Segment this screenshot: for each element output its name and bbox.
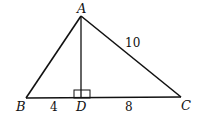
- label-d: D: [75, 99, 87, 113]
- segment-ab: [26, 16, 81, 98]
- label-c: C: [181, 98, 191, 113]
- triangle-diagram: A B D C 10 4 8: [0, 0, 199, 113]
- length-bd: 4: [50, 100, 58, 113]
- length-ac: 10: [125, 36, 140, 50]
- label-a: A: [76, 1, 86, 16]
- label-b: B: [15, 99, 26, 113]
- right-angle-marker: [74, 90, 90, 98]
- length-dc: 8: [125, 100, 133, 113]
- segment-bc: [26, 97, 181, 98]
- segment-ac: [81, 16, 181, 97]
